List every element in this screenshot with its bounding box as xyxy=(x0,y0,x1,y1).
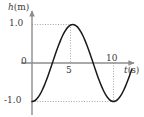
x-axis-label: t(s) xyxy=(124,66,139,75)
y-tick-label-negative-one: -1.0 xyxy=(4,96,21,105)
x-axis-unit: (s) xyxy=(128,65,140,75)
y-axis-label: h(m) xyxy=(8,3,29,12)
y-tick-label-zero: 0 xyxy=(21,57,27,66)
x-tick-label-five: 5 xyxy=(66,66,72,75)
x-tick-label-ten: 10 xyxy=(106,54,117,63)
y-tick-label-positive-one: 1.0 xyxy=(9,19,23,28)
chart-figure: h(m) t(s) 1.0 0 -1.0 5 10 xyxy=(0,0,144,117)
y-axis-unit: (m) xyxy=(14,2,30,12)
